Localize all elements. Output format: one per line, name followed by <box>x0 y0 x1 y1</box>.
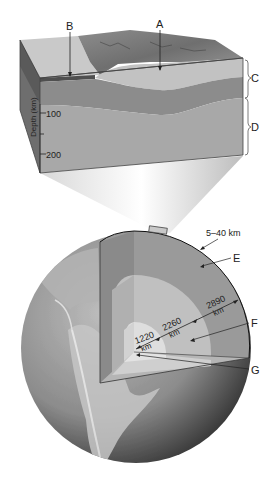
depth-axis-title: Depth (km) <box>29 97 38 137</box>
label-a: A <box>156 18 164 30</box>
label-f: F <box>251 317 258 329</box>
tick-200: 200 <box>46 150 61 160</box>
tick-100: 100 <box>46 109 61 119</box>
earth-structure-diagram: 100 200 Depth (km) B A C D <box>0 0 274 486</box>
label-e: E <box>233 252 240 264</box>
label-c: C <box>251 72 259 84</box>
cutaway-wedge <box>100 231 250 383</box>
label-g: G <box>251 364 260 376</box>
crust-thickness-label: 5–40 km <box>206 228 241 238</box>
label-d: D <box>251 121 259 133</box>
block-diagram: 100 200 Depth (km) B A C D <box>20 18 259 173</box>
label-b: B <box>66 20 73 32</box>
globe <box>21 226 251 470</box>
